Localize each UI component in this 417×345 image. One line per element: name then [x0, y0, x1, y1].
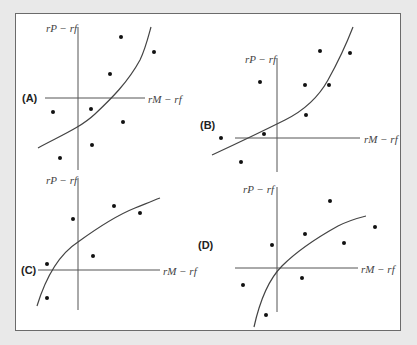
panel-tag: (C) — [21, 264, 37, 276]
x-axis-label: rM − rf — [163, 265, 199, 277]
panel-tag: (B) — [200, 119, 216, 131]
y-axis-label: rP − rf — [243, 183, 276, 195]
data-points — [45, 204, 142, 300]
fitted-curve — [212, 27, 353, 155]
fitted-curve — [254, 216, 366, 327]
panel-b: rP − rf rM − rf (B) — [200, 27, 400, 172]
panel-tag: (A) — [22, 92, 38, 104]
x-axis-label: rM − rf — [361, 263, 397, 275]
x-axis-label: rM − rf — [148, 93, 184, 105]
y-axis-label: rP − rf — [46, 22, 79, 34]
data-points — [241, 199, 377, 317]
x-axis-label: rM − rf — [364, 133, 400, 145]
y-axis-label: rP − rf — [245, 53, 278, 65]
data-points — [219, 49, 352, 164]
fitted-curve — [38, 27, 151, 148]
market-timing-scatter-diagram: rP − rf rM − rf (A) rP − rf rM − rf (B) — [0, 0, 417, 345]
panel-d: rP − rf rM − rf (D) — [198, 183, 397, 327]
panel-c: rP − rf rM − rf (C) — [21, 174, 199, 310]
panel-tag: (D) — [198, 239, 214, 251]
y-axis-label: rP − rf — [46, 174, 79, 186]
panel-a: rP − rf rM − rf (A) — [22, 22, 184, 170]
